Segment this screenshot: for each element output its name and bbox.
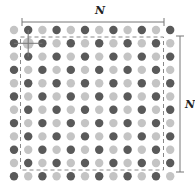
lattice-site — [152, 172, 160, 180]
lattice-site — [10, 52, 18, 60]
lattice-site — [166, 146, 174, 154]
lattice-site — [95, 146, 103, 154]
lattice-site — [24, 79, 32, 87]
lattice-site — [67, 79, 75, 87]
lattice-site — [166, 92, 174, 100]
lattice-site — [152, 132, 160, 140]
lattice-site — [81, 106, 89, 114]
lattice-site — [123, 172, 131, 180]
lattice-site — [38, 146, 46, 154]
lattice-site — [52, 146, 60, 154]
lattice-site — [152, 159, 160, 167]
lattice-site — [109, 92, 117, 100]
lattice-site — [52, 26, 60, 34]
lattice-site — [123, 132, 131, 140]
lattice-site — [10, 119, 18, 127]
lattice-site — [95, 106, 103, 114]
lattice-site — [81, 79, 89, 87]
lattice-site — [166, 172, 174, 180]
lattice-site — [52, 159, 60, 167]
lattice-site — [95, 52, 103, 60]
top-n-label: N — [94, 4, 106, 17]
lattice-site — [138, 146, 146, 154]
lattice-site — [152, 26, 160, 34]
lattice-site — [81, 146, 89, 154]
lattice-site — [109, 146, 117, 154]
lattice-site — [166, 52, 174, 60]
right-n-label: N — [184, 98, 195, 111]
lattice-site — [52, 172, 60, 180]
lattice-site — [166, 66, 174, 74]
lattice-site — [38, 79, 46, 87]
lattice-site — [138, 119, 146, 127]
lattice-site — [166, 132, 174, 140]
lattice-site — [152, 146, 160, 154]
lattice-site — [123, 26, 131, 34]
lattice-site — [138, 66, 146, 74]
lattice-site — [67, 26, 75, 34]
lattice-site — [166, 26, 174, 34]
lattice-site — [67, 132, 75, 140]
lattice-site — [152, 66, 160, 74]
lattice-site — [123, 66, 131, 74]
neighbor-cross — [14, 30, 42, 57]
lattice-site — [152, 52, 160, 60]
lattice-site — [10, 26, 18, 34]
lattice-site — [10, 66, 18, 74]
lattice-site — [109, 52, 117, 60]
lattice-site — [38, 52, 46, 60]
lattice-site — [38, 106, 46, 114]
lattice-site — [138, 132, 146, 140]
lattice-site — [81, 172, 89, 180]
lattice-site — [10, 159, 18, 167]
lattice-site — [109, 119, 117, 127]
lattice-site — [24, 92, 32, 100]
lattice-site — [52, 92, 60, 100]
lattice-site — [52, 39, 60, 47]
lattice-site — [10, 146, 18, 154]
lattice-site — [52, 66, 60, 74]
lattice-site — [52, 106, 60, 114]
lattice-site — [152, 106, 160, 114]
lattice-site — [67, 92, 75, 100]
lattice-site — [109, 132, 117, 140]
lattice-site — [123, 159, 131, 167]
top-dimension-bracket — [22, 18, 164, 26]
lattice-site — [81, 159, 89, 167]
lattice-site — [166, 119, 174, 127]
lattice-site — [138, 52, 146, 60]
lattice-site — [123, 106, 131, 114]
lattice-site — [24, 146, 32, 154]
lattice-site — [138, 39, 146, 47]
lattice-site — [38, 92, 46, 100]
lattice-site — [109, 66, 117, 74]
lattice-site — [52, 52, 60, 60]
lattice-site — [38, 26, 46, 34]
lattice-site — [95, 66, 103, 74]
lattice-site — [138, 106, 146, 114]
lattice-site — [24, 159, 32, 167]
lattice-site — [10, 106, 18, 114]
lattice-site — [123, 119, 131, 127]
lattice-site — [67, 119, 75, 127]
lattice-site — [67, 106, 75, 114]
lattice-site — [81, 26, 89, 34]
lattice-site — [38, 172, 46, 180]
lattice-site — [81, 92, 89, 100]
lattice-site — [109, 172, 117, 180]
lattice-site — [95, 172, 103, 180]
lattice-site — [67, 159, 75, 167]
lattice-site — [67, 39, 75, 47]
lattice-site — [67, 146, 75, 154]
lattice-site — [152, 39, 160, 47]
lattice-site — [52, 79, 60, 87]
lattice-site — [95, 132, 103, 140]
lattice-site — [138, 172, 146, 180]
lattice-site — [10, 132, 18, 140]
lattice-site — [10, 172, 18, 180]
lattice-site — [95, 79, 103, 87]
lattice-site — [81, 39, 89, 47]
right-dimension-bracket — [176, 36, 184, 172]
lattice-site — [95, 119, 103, 127]
lattice-site — [123, 79, 131, 87]
